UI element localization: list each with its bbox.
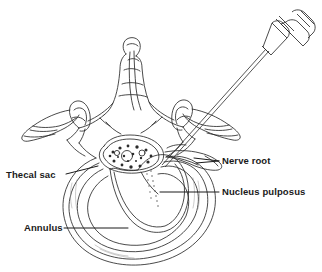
transverse-process-right bbox=[183, 109, 240, 140]
thecal-sac-inner-rings bbox=[114, 150, 145, 162]
needle-hub bbox=[262, 16, 294, 55]
anatomical-illustration: Thecal sac Annulus Nerve root Nucleus pu… bbox=[0, 0, 322, 272]
lamina bbox=[79, 102, 183, 134]
syringe-connector bbox=[281, 10, 315, 46]
leader-lines bbox=[64, 158, 219, 228]
label-nerve-root: Nerve root bbox=[222, 156, 271, 166]
leader-nerve-root-b bbox=[196, 161, 219, 163]
superior-articular-facet-left bbox=[67, 101, 90, 143]
needle-shaft bbox=[162, 49, 269, 167]
leader-thecal-sac bbox=[66, 166, 98, 174]
label-thecal-sac: Thecal sac bbox=[6, 170, 56, 180]
transverse-process-left bbox=[22, 110, 79, 141]
label-nucleus-pulposus: Nucleus pulposus bbox=[222, 187, 305, 197]
nerve-rootlets-stipple bbox=[109, 145, 153, 169]
superior-articular-facet-right bbox=[172, 100, 195, 142]
label-annulus: Annulus bbox=[24, 223, 63, 233]
